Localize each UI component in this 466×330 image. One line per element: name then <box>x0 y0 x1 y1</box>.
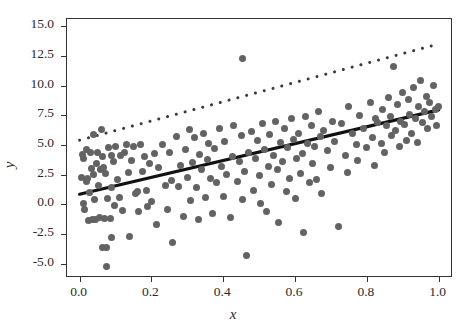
scatter-point <box>300 229 307 236</box>
scatter-point <box>196 151 203 158</box>
scatter-point <box>114 176 121 183</box>
x-tick-label: 0.0 <box>49 284 109 300</box>
scatter-point <box>292 195 299 202</box>
scatter-point <box>412 115 419 122</box>
scatter-point <box>268 181 275 188</box>
scatter-point <box>143 187 150 194</box>
y-axis-tick <box>61 264 67 265</box>
scatter-point <box>80 155 87 162</box>
scatter-point <box>378 140 385 147</box>
y-axis-tick <box>61 175 67 176</box>
scatter-point <box>399 89 406 96</box>
scatter-point <box>304 140 311 147</box>
scatter-point <box>327 164 334 171</box>
scatter-point <box>98 126 105 133</box>
scatter-point <box>125 169 132 176</box>
y-axis-tick <box>61 204 67 205</box>
x-tick-label: 1.0 <box>408 284 466 300</box>
scatter-point <box>277 139 284 146</box>
scatter-point <box>200 130 207 137</box>
scatter-point <box>329 118 336 125</box>
scatter-point <box>202 194 209 201</box>
scatter-point <box>173 133 180 140</box>
scatter-point <box>108 234 115 241</box>
scatter-point <box>433 122 440 129</box>
scatter-point <box>261 146 268 153</box>
scatter-point <box>186 126 193 133</box>
scatter-point <box>403 137 410 144</box>
scatter-point <box>313 176 320 183</box>
scatter-point <box>290 136 297 143</box>
scatter-point <box>218 163 225 170</box>
scatter-point <box>151 150 158 157</box>
scatter-point <box>252 155 259 162</box>
scatter-point <box>86 189 93 196</box>
scatter-point <box>257 200 264 207</box>
scatter-point <box>139 168 146 175</box>
y-axis-tick <box>61 26 67 27</box>
scatter-point <box>128 157 135 164</box>
scatter-point <box>248 128 255 135</box>
scatter-point <box>130 143 137 150</box>
scatter-point <box>191 134 198 141</box>
scatter-point <box>216 125 223 132</box>
scatter-point <box>164 206 171 213</box>
scatter-point <box>401 121 408 128</box>
scatter-point <box>182 146 189 153</box>
scatter-point <box>344 169 351 176</box>
scatter-point <box>184 174 191 181</box>
scatter-point <box>236 158 243 165</box>
scatter-point <box>369 134 376 141</box>
scatter-point <box>221 138 228 145</box>
y-axis-tick <box>61 145 67 146</box>
scatter-point <box>367 99 374 106</box>
scatter-point <box>141 153 148 160</box>
scatter-point <box>324 147 331 154</box>
scatter-point <box>91 196 98 203</box>
scatter-point <box>308 122 315 129</box>
scatter-point <box>110 158 117 165</box>
scatter-point <box>281 125 288 132</box>
x-axis-tick <box>295 276 296 282</box>
scatter-point <box>126 233 133 240</box>
scatter-point <box>320 127 327 134</box>
y-tick-label: 0.0 <box>0 194 54 210</box>
scatter-point <box>428 113 435 120</box>
scatter-point <box>103 263 110 270</box>
x-axis-tick <box>367 276 368 282</box>
scatter-point <box>295 130 302 137</box>
scatter-point <box>318 190 325 197</box>
scatter-point <box>286 175 293 182</box>
x-axis-label: x <box>0 306 466 323</box>
scatter-point <box>121 149 128 156</box>
scatter-point <box>81 206 88 213</box>
scatter-point <box>302 113 309 120</box>
scatter-point <box>134 188 141 195</box>
scatter-point <box>227 214 234 221</box>
scatter-point <box>311 143 318 150</box>
scatter-point <box>270 152 277 159</box>
scatter-point <box>116 194 123 201</box>
scatter-point <box>354 157 361 164</box>
scatter-point <box>417 77 424 84</box>
scatter-point <box>283 188 290 195</box>
scatter-point <box>256 172 263 179</box>
scatter-point <box>175 183 182 190</box>
scatter-point <box>360 125 367 132</box>
x-axis-tick <box>80 276 81 282</box>
figure: -5.0-2.50.02.55.07.510.012.515.00.00.20.… <box>0 0 466 330</box>
scatter-point <box>284 144 291 151</box>
scatter-point <box>387 113 394 120</box>
scatter-point <box>421 108 428 115</box>
scatter-point <box>299 150 306 157</box>
scatter-point <box>123 141 130 148</box>
scatter-point <box>426 99 433 106</box>
scatter-point <box>234 178 241 185</box>
scatter-point <box>198 166 205 173</box>
scatter-point <box>238 132 245 139</box>
scatter-point <box>306 179 313 186</box>
scatter-point <box>297 170 304 177</box>
scatter-point <box>137 141 144 148</box>
scatter-point <box>254 137 261 144</box>
y-tick-label: 2.5 <box>0 165 54 181</box>
